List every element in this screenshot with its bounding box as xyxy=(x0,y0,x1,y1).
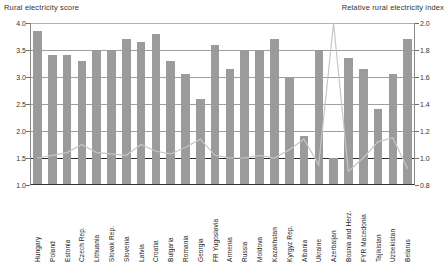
right-tick-label: 1.8 xyxy=(420,47,430,54)
x-axis-labels: HungaryPolandEstoniaCzech Rep.LithuaniaS… xyxy=(30,188,415,262)
x-label-slot: Albania xyxy=(297,188,312,262)
x-axis-label: Bosnia and Herz. xyxy=(345,188,352,262)
right-tick-mark xyxy=(415,185,419,186)
right-tick-label: 1.4 xyxy=(420,101,430,108)
x-label-slot: Azerbaijan xyxy=(326,188,341,262)
right-tick-mark xyxy=(415,50,419,51)
x-axis-label: Azerbaijan xyxy=(330,188,337,262)
right-tick-label: 1.0 xyxy=(420,155,430,162)
x-axis-label: Kyrgyz Rep. xyxy=(286,188,293,262)
x-label-slot: Croatia xyxy=(149,188,164,262)
x-axis-label: Estonia xyxy=(64,188,71,262)
left-tick-label: 2.0 xyxy=(16,128,26,135)
x-axis-label: Latvia xyxy=(138,188,145,262)
right-tick-mark xyxy=(415,77,419,78)
right-tick-label: 1.6 xyxy=(420,74,430,81)
x-label-slot: Lithuania xyxy=(89,188,104,262)
right-axis-title: Relative rural electricity index xyxy=(342,3,444,12)
x-label-slot: Czech Rep. xyxy=(74,188,89,262)
x-axis-label: Poland xyxy=(49,188,56,262)
x-axis-label: Slovenia xyxy=(123,188,130,262)
left-tick-mark xyxy=(26,185,30,186)
x-label-slot: Slovak Rep. xyxy=(104,188,119,262)
x-axis-label: Belarus xyxy=(404,188,411,262)
left-tick-label: 1.0 xyxy=(16,182,26,189)
x-axis-label: Armenia xyxy=(226,188,233,262)
left-tick-label: 3.0 xyxy=(16,74,26,81)
x-axis-label: FR Yugoslavia xyxy=(212,188,219,262)
x-label-slot: Hungary xyxy=(30,188,45,262)
x-label-slot: FR Yugoslavia xyxy=(208,188,223,262)
left-tick-label: 2.5 xyxy=(16,101,26,108)
x-label-slot: Bosnia and Herz. xyxy=(341,188,356,262)
x-label-slot: Poland xyxy=(45,188,60,262)
right-tick-mark xyxy=(415,158,419,159)
x-label-slot: Tajikistan xyxy=(371,188,386,262)
right-tick-label: 2.0 xyxy=(420,20,430,27)
x-label-slot: Moldova xyxy=(252,188,267,262)
right-tick-mark xyxy=(415,131,419,132)
x-label-slot: Kyrgyz Rep. xyxy=(282,188,297,262)
right-tick-mark xyxy=(415,23,419,24)
x-label-slot: FYR Macedonia xyxy=(356,188,371,262)
x-axis-label: Moldova xyxy=(256,188,263,262)
left-tick-label: 1.5 xyxy=(16,155,26,162)
plot-frame xyxy=(30,23,415,185)
left-axis-title: Rural electricity score xyxy=(4,3,79,12)
right-tick-label: 0.8 xyxy=(420,182,430,189)
x-axis-label: Albania xyxy=(301,188,308,262)
left-tick-label: 4.0 xyxy=(16,20,26,27)
x-label-slot: Ukraine xyxy=(311,188,326,262)
x-label-slot: Armenia xyxy=(223,188,238,262)
x-label-slot: Uzbekistan xyxy=(386,188,401,262)
x-axis-label: Georgia xyxy=(197,188,204,262)
x-axis-label: Hungary xyxy=(34,188,41,262)
x-axis-label: FYR Macedonia xyxy=(360,188,367,262)
x-label-slot: Romania xyxy=(178,188,193,262)
chart-container: Rural electricity score Relative rural e… xyxy=(0,0,447,264)
x-label-slot: Bulgaria xyxy=(163,188,178,262)
right-tick-mark xyxy=(415,104,419,105)
x-label-slot: Kazakhstan xyxy=(267,188,282,262)
x-axis-label: Uzbekistan xyxy=(389,188,396,262)
x-axis-label: Romania xyxy=(182,188,189,262)
x-axis-label: Kazakhstan xyxy=(271,188,278,262)
x-axis-label: Tajikistan xyxy=(375,188,382,262)
x-label-slot: Latvia xyxy=(134,188,149,262)
x-label-slot: Russia xyxy=(237,188,252,262)
x-label-slot: Slovenia xyxy=(119,188,134,262)
x-axis-label: Slovak Rep. xyxy=(108,188,115,262)
left-tick-label: 3.5 xyxy=(16,47,26,54)
x-axis-label: Bulgaria xyxy=(167,188,174,262)
x-axis-label: Ukraine xyxy=(315,188,322,262)
x-label-slot: Estonia xyxy=(60,188,75,262)
x-axis-label: Croatia xyxy=(152,188,159,262)
x-label-slot: Georgia xyxy=(193,188,208,262)
plot-area: 1.01.52.02.53.03.54.0 0.81.01.21.41.61.8… xyxy=(30,23,415,185)
right-tick-label: 1.2 xyxy=(420,128,430,135)
x-axis-label: Lithuania xyxy=(93,188,100,262)
x-label-slot: Belarus xyxy=(400,188,415,262)
x-axis-label: Czech Rep. xyxy=(78,188,85,262)
x-axis-label: Russia xyxy=(241,188,248,262)
